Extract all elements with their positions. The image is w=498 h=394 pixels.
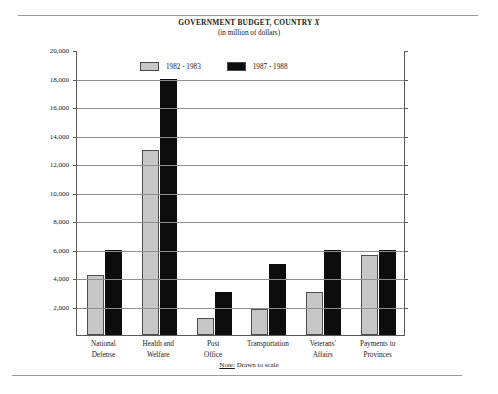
chart-title-text: GOVERNMENT BUDGET, COUNTRY	[178, 18, 314, 27]
plot-area	[76, 51, 405, 336]
chart-title-variable: X	[314, 18, 319, 27]
bar-series-a	[251, 309, 268, 335]
bar-series-b	[324, 250, 341, 336]
y-axis-label: 20,000	[25, 47, 69, 55]
bar-series-a	[197, 318, 214, 335]
y-axis-tick	[73, 51, 77, 52]
y-axis-label: 6,000	[25, 247, 69, 255]
footnote-lead: Note:	[219, 361, 235, 369]
y-axis-label: 8,000	[25, 218, 69, 226]
category-label-line: Payments to	[350, 339, 405, 350]
y-axis-tick-right	[404, 165, 408, 166]
gridline	[77, 108, 404, 109]
y-axis-label: 10,000	[25, 190, 69, 198]
bar-series-a	[87, 275, 104, 335]
y-axis-tick-right	[404, 222, 408, 223]
chart-footnote: Note: Drawn to scale	[0, 361, 498, 369]
y-axis-tick	[73, 137, 77, 138]
y-axis-tick	[73, 222, 77, 223]
y-axis-label: 2,000	[25, 304, 69, 312]
category-label-line: Affairs	[295, 350, 350, 361]
gridline	[77, 279, 404, 280]
y-axis-tick-right	[404, 80, 408, 81]
y-axis-tick-right	[404, 251, 408, 252]
category-label: Payments toProvinces	[350, 339, 405, 360]
gridline	[77, 194, 404, 195]
category-label-line: Transportation	[241, 339, 296, 350]
category-label-line: National	[76, 339, 131, 350]
category-label: Transportation	[241, 339, 296, 350]
y-axis-label: 12,000	[25, 161, 69, 169]
gridline	[77, 165, 404, 166]
y-axis-tick	[73, 80, 77, 81]
chart-page: GOVERNMENT BUDGET, COUNTRY X (in million…	[0, 0, 498, 394]
category-label: NationalDefense	[76, 339, 131, 360]
bar-series-a	[361, 255, 378, 335]
y-axis-tick	[73, 308, 77, 309]
y-axis-tick	[73, 165, 77, 166]
category-label-line: Welfare	[131, 350, 186, 361]
y-axis-tick-right	[404, 51, 408, 52]
category-label-line: Provinces	[350, 350, 405, 361]
gridline	[77, 308, 404, 309]
bar-series-b	[105, 250, 122, 336]
y-axis-tick-right	[404, 308, 408, 309]
gridline	[77, 222, 404, 223]
bar-series-b	[160, 79, 177, 336]
category-label-line: Post	[186, 339, 241, 350]
gridline	[77, 251, 404, 252]
bar-series-b	[269, 264, 286, 335]
category-label-line: Health and	[131, 339, 186, 350]
category-label-line: Office	[186, 350, 241, 361]
y-axis-tick	[73, 194, 77, 195]
y-axis-tick-right	[404, 194, 408, 195]
y-axis-label: 4,000	[25, 275, 69, 283]
category-label-line: Veterans'	[295, 339, 350, 350]
y-axis-tick-right	[404, 108, 408, 109]
category-label: PostOffice	[186, 339, 241, 360]
chart-subtitle: (in million of dollars)	[0, 28, 498, 39]
y-axis-tick	[73, 108, 77, 109]
chart-title: GOVERNMENT BUDGET, COUNTRY X	[0, 17, 498, 28]
page-rule-bottom	[12, 375, 462, 376]
y-axis-tick	[73, 251, 77, 252]
footnote-text: Drawn to scale	[235, 361, 279, 369]
y-axis-label: 18,000	[25, 76, 69, 84]
category-label-line: Defense	[76, 350, 131, 361]
y-axis-label: 14,000	[25, 133, 69, 141]
y-axis-tick-right	[404, 137, 408, 138]
bar-series-a	[306, 292, 323, 335]
y-axis-tick-right	[404, 279, 408, 280]
gridline	[77, 80, 404, 81]
category-label: Veterans'Affairs	[295, 339, 350, 360]
bar-series-b	[215, 292, 232, 335]
y-axis-label: 16,000	[25, 104, 69, 112]
category-label: Health andWelfare	[131, 339, 186, 360]
y-axis-tick	[73, 279, 77, 280]
gridline	[77, 137, 404, 138]
page-rule-top	[18, 15, 478, 16]
bar-series-b	[379, 250, 396, 336]
chart-title-block: GOVERNMENT BUDGET, COUNTRY X (in million…	[0, 17, 498, 39]
